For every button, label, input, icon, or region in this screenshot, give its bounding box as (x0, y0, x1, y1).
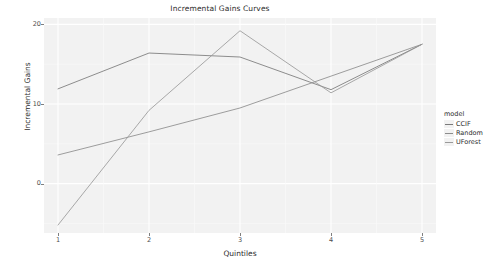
x-tick-label: 2 (134, 236, 164, 244)
x-tick-mark (58, 233, 59, 236)
x-tick-label: 5 (407, 236, 437, 244)
legend-line-swatch-icon (444, 120, 454, 128)
plot-panel (44, 18, 436, 233)
legend-item-label: Random (456, 129, 483, 137)
x-axis-label: Quintiles (44, 249, 436, 258)
incremental-gains-chart: Incremental Gains Curves Incremental Gai… (0, 0, 496, 265)
y-axis-label: Incremental Gains (23, 27, 32, 167)
y-tick-label: 0 (0, 179, 45, 187)
y-tick-label: 20 (0, 20, 45, 28)
x-tick-mark (149, 233, 150, 236)
legend-item-ccif[interactable]: CCIF (444, 120, 496, 128)
legend-items: CCIFRandomUForest (444, 120, 496, 146)
chart-title: Incremental Gains Curves (0, 4, 440, 13)
x-tick-label: 1 (43, 236, 73, 244)
legend-line-swatch-icon (444, 129, 454, 137)
legend-item-label: UForest (456, 138, 481, 146)
x-tick-mark (422, 233, 423, 236)
x-tick-label: 3 (225, 236, 255, 244)
plot-area (44, 18, 436, 233)
legend-item-uforest[interactable]: UForest (444, 138, 496, 146)
x-tick-mark (240, 233, 241, 236)
x-tick-label: 4 (316, 236, 346, 244)
y-tick-label: 10 (0, 100, 45, 108)
x-tick-mark (331, 233, 332, 236)
legend-title: model (444, 110, 496, 118)
legend: model CCIFRandomUForest (444, 110, 496, 147)
legend-item-label: CCIF (456, 120, 471, 128)
legend-item-random[interactable]: Random (444, 129, 496, 137)
legend-line-swatch-icon (444, 138, 454, 146)
